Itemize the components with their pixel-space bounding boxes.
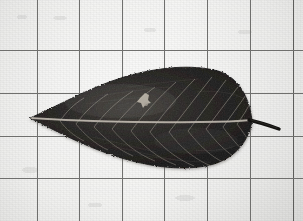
- leaf-petiole: [249, 120, 279, 129]
- leaf-layer: [0, 0, 303, 221]
- leaf-photograph: [0, 0, 303, 221]
- leaf-illustration: [0, 0, 303, 221]
- leaf-venation: [20, 55, 270, 180]
- leaf-grain-overlay: [20, 55, 270, 180]
